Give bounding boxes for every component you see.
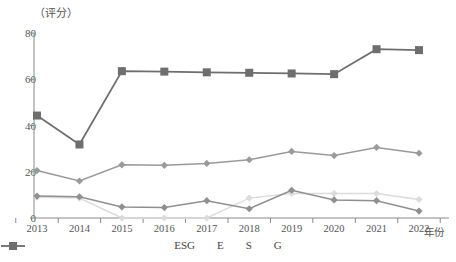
x-axis-tick-label: 2020 bbox=[324, 223, 345, 234]
legend-item-s[interactable]: S bbox=[246, 240, 252, 251]
series-esg bbox=[33, 144, 422, 185]
data-point bbox=[373, 190, 380, 197]
legend-label: E bbox=[217, 240, 224, 251]
data-point bbox=[246, 205, 253, 212]
data-point bbox=[288, 148, 295, 155]
legend-item-esg[interactable]: ESG bbox=[174, 240, 195, 251]
data-point bbox=[415, 46, 423, 54]
data-point bbox=[161, 214, 168, 221]
data-point bbox=[415, 207, 422, 214]
series-s bbox=[33, 187, 422, 215]
x-axis-tick-label: 2014 bbox=[69, 223, 90, 234]
series-line-e bbox=[37, 193, 419, 218]
data-point bbox=[118, 203, 125, 210]
data-point bbox=[331, 196, 338, 203]
legend-label: G bbox=[274, 240, 282, 251]
x-axis-tick-label: 2015 bbox=[111, 223, 132, 234]
data-point bbox=[415, 196, 422, 203]
data-point bbox=[246, 156, 253, 163]
data-point bbox=[373, 144, 380, 151]
legend-label: S bbox=[246, 240, 252, 251]
data-point bbox=[288, 69, 296, 77]
data-point bbox=[203, 214, 210, 221]
data-point bbox=[160, 68, 168, 76]
data-point bbox=[161, 204, 168, 211]
series-line-g bbox=[37, 49, 419, 144]
legend-label: ESG bbox=[174, 240, 195, 251]
chart-legend: ESGESG bbox=[0, 240, 456, 251]
legend-marker-g-icon bbox=[0, 240, 26, 252]
data-point bbox=[331, 190, 338, 197]
x-axis-tick-label: 2017 bbox=[196, 223, 217, 234]
data-point bbox=[246, 195, 253, 202]
series-e bbox=[33, 190, 422, 222]
series-g bbox=[33, 45, 423, 148]
data-point bbox=[203, 68, 211, 76]
x-axis-title: 年份 bbox=[424, 224, 444, 239]
legend-item-g[interactable]: G bbox=[274, 240, 282, 251]
legend-item-e[interactable]: E bbox=[217, 240, 224, 251]
x-axis-tick-label: 2019 bbox=[281, 223, 302, 234]
x-axis-tick-label: 2021 bbox=[366, 223, 387, 234]
data-point bbox=[203, 197, 210, 204]
data-point bbox=[331, 152, 338, 159]
series-line-esg bbox=[37, 147, 419, 181]
data-point bbox=[245, 69, 253, 77]
x-axis-tick-label: 2016 bbox=[154, 223, 175, 234]
data-point bbox=[373, 197, 380, 204]
data-point bbox=[118, 214, 125, 221]
data-point bbox=[203, 160, 210, 167]
data-point bbox=[161, 162, 168, 169]
esg-score-line-chart: （评分） 020406080 2013201420152016201720182… bbox=[0, 0, 456, 262]
x-axis-tick-label: 2013 bbox=[27, 223, 48, 234]
data-point bbox=[75, 140, 83, 148]
data-point bbox=[76, 177, 83, 184]
data-point bbox=[118, 67, 126, 75]
data-point bbox=[118, 161, 125, 168]
data-point bbox=[330, 70, 338, 78]
data-point bbox=[33, 112, 41, 120]
data-point bbox=[415, 150, 422, 157]
x-axis-tick-label: 2018 bbox=[239, 223, 260, 234]
data-point bbox=[373, 45, 381, 53]
